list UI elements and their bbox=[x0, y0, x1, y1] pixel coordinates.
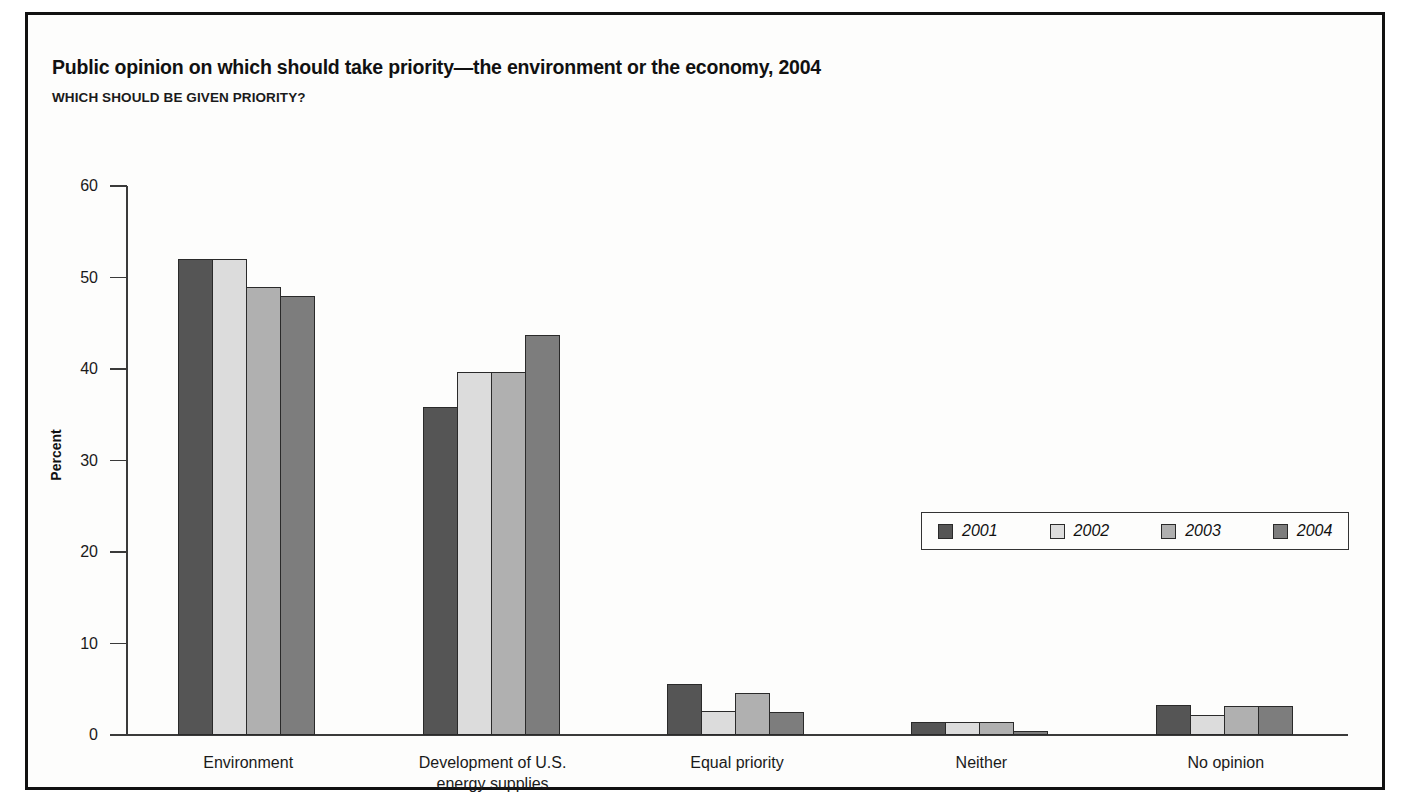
y-axis-tick-label: 40 bbox=[38, 360, 98, 378]
bar[interactable] bbox=[178, 259, 213, 735]
bar[interactable] bbox=[979, 722, 1014, 735]
bar[interactable] bbox=[667, 684, 702, 735]
bar[interactable] bbox=[735, 693, 770, 735]
x-axis-category-label: Development of U.S. energy supplies bbox=[363, 752, 623, 794]
bar-group-bars bbox=[911, 186, 1047, 735]
bar[interactable] bbox=[423, 407, 458, 735]
bar[interactable] bbox=[525, 335, 560, 735]
legend-swatch-icon bbox=[938, 524, 953, 539]
figure-frame: Public opinion on which should take prio… bbox=[25, 12, 1385, 790]
bar-group-bars bbox=[178, 186, 314, 735]
plot-area: Percent 0102030405060 EnvironmentDevelop… bbox=[126, 175, 1348, 735]
y-axis-tick-labels: 0102030405060 bbox=[38, 175, 98, 735]
legend-item-label: 2001 bbox=[962, 522, 998, 540]
y-axis-tick-label: 30 bbox=[38, 452, 98, 470]
y-axis-tick bbox=[110, 460, 127, 462]
y-axis-tick bbox=[110, 277, 127, 279]
bar[interactable] bbox=[1258, 706, 1293, 735]
bar-group-bars bbox=[1156, 186, 1292, 735]
legend-swatch-icon bbox=[1273, 524, 1288, 539]
x-axis-category-label: Equal priority bbox=[607, 752, 867, 773]
bar[interactable] bbox=[246, 287, 281, 735]
legend-item-label: 2004 bbox=[1297, 522, 1333, 540]
y-axis-tick bbox=[110, 551, 127, 553]
bar-group: Development of U.S. energy supplies bbox=[370, 186, 614, 735]
y-axis-tick-label: 60 bbox=[38, 177, 98, 195]
bar[interactable] bbox=[1224, 706, 1259, 735]
bar[interactable] bbox=[769, 712, 804, 735]
chart-legend: 2001200220032004 bbox=[921, 512, 1349, 550]
bar[interactable] bbox=[1013, 731, 1048, 735]
y-axis-tick bbox=[110, 185, 127, 187]
y-axis-tick-label: 0 bbox=[38, 726, 98, 744]
x-axis-category-label: Neither bbox=[851, 752, 1111, 773]
y-axis-tick bbox=[110, 368, 127, 370]
chart-subtitle: WHICH SHOULD BE GIVEN PRIORITY? bbox=[52, 90, 306, 105]
y-axis-tick-label: 50 bbox=[38, 269, 98, 287]
bar[interactable] bbox=[701, 711, 736, 735]
x-axis-category-label: Environment bbox=[118, 752, 378, 773]
bar[interactable] bbox=[945, 722, 980, 735]
bar-group: Equal priority bbox=[615, 186, 859, 735]
legend-swatch-icon bbox=[1161, 524, 1176, 539]
bar[interactable] bbox=[280, 296, 315, 735]
bar[interactable] bbox=[491, 372, 526, 735]
bar[interactable] bbox=[1190, 715, 1225, 735]
bar-group: Neither bbox=[859, 186, 1103, 735]
legend-item[interactable]: 2002 bbox=[1050, 522, 1110, 540]
legend-item[interactable]: 2001 bbox=[938, 522, 998, 540]
legend-item[interactable]: 2003 bbox=[1161, 522, 1221, 540]
legend-item[interactable]: 2004 bbox=[1273, 522, 1333, 540]
y-axis-tick bbox=[110, 643, 127, 645]
legend-swatch-icon bbox=[1050, 524, 1065, 539]
bar[interactable] bbox=[911, 722, 946, 735]
bar-group: No opinion bbox=[1104, 186, 1348, 735]
bar[interactable] bbox=[212, 259, 247, 735]
bar-group: Environment bbox=[126, 186, 370, 735]
y-axis-tick-label: 20 bbox=[38, 543, 98, 561]
y-axis-tick bbox=[110, 734, 127, 736]
chart-title: Public opinion on which should take prio… bbox=[52, 56, 821, 79]
y-axis-tick-label: 10 bbox=[38, 635, 98, 653]
x-axis-category-label: No opinion bbox=[1096, 752, 1356, 773]
bar-group-bars bbox=[423, 186, 559, 735]
bar-group-bars bbox=[667, 186, 803, 735]
legend-item-label: 2002 bbox=[1074, 522, 1110, 540]
bar[interactable] bbox=[457, 372, 492, 735]
legend-item-label: 2003 bbox=[1185, 522, 1221, 540]
bar[interactable] bbox=[1156, 705, 1191, 735]
